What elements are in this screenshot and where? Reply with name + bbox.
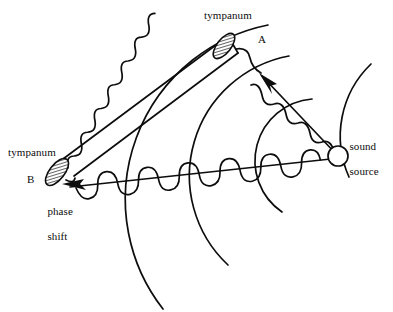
tube-edge-upper	[63, 36, 228, 159]
label-sound-source-line1: sound	[349, 140, 376, 152]
diagram-figure: tympanum A tympanum B phase shift sound …	[0, 0, 393, 312]
label-phase-shift-line2: shift	[47, 230, 67, 242]
label-phase-shift: phase shift	[36, 192, 73, 255]
tube-edge-lower	[74, 53, 238, 176]
diagram-canvas	[0, 0, 393, 312]
label-sound-source: sound source	[338, 127, 379, 190]
label-tympanum-left: tympanum	[8, 146, 56, 159]
tympanum-b-curl	[66, 178, 75, 182]
label-sound-source-line2: source	[349, 165, 378, 177]
wavefront-arc-2	[189, 56, 289, 265]
label-point-b: B	[27, 173, 34, 186]
label-phase-shift-line1: phase	[47, 205, 73, 217]
label-point-a: A	[258, 33, 266, 46]
wave-on-ray-b	[75, 149, 322, 200]
label-tympanum-top: tympanum	[204, 9, 252, 22]
arrowhead-a	[259, 73, 277, 94]
tube-internal-wave	[24, 12, 198, 168]
tympanum-a-curl	[236, 49, 261, 73]
wave-on-ray-a	[251, 84, 334, 152]
wavefront-arcs	[125, 25, 371, 309]
